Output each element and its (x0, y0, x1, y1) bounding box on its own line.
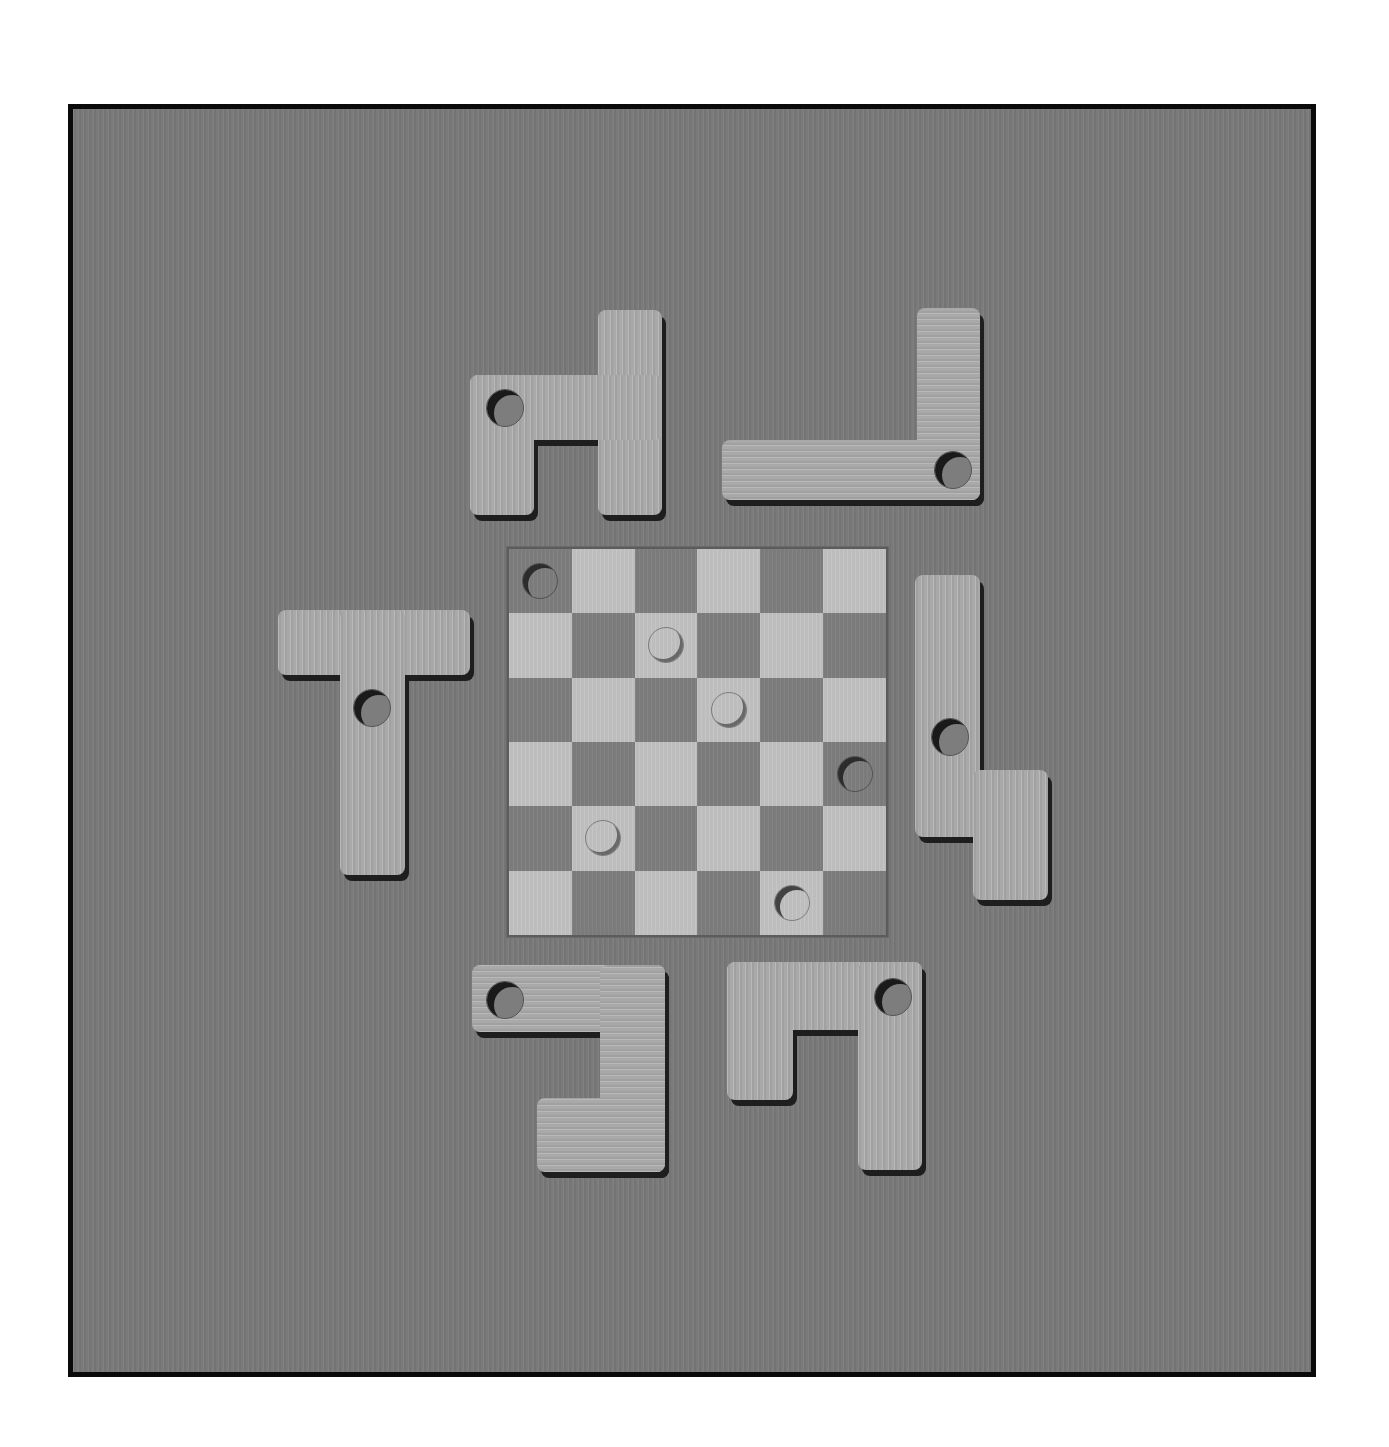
board-cell[interactable] (823, 549, 886, 613)
board-cell[interactable] (760, 806, 823, 870)
board-cell[interactable] (635, 613, 698, 677)
board-cell[interactable] (572, 678, 635, 742)
board-cell[interactable] (509, 806, 572, 870)
board-cell[interactable] (697, 742, 760, 806)
piece-segment[interactable] (727, 962, 793, 1100)
board-cell[interactable] (697, 613, 760, 677)
board-cell[interactable] (572, 613, 635, 677)
board-cell[interactable] (572, 871, 635, 935)
board-cell[interactable] (572, 549, 635, 613)
board-cell[interactable] (509, 742, 572, 806)
board-cell[interactable] (760, 742, 823, 806)
board-cell[interactable] (697, 678, 760, 742)
peg-hole-icon[interactable] (522, 563, 558, 599)
board-cell[interactable] (509, 549, 572, 613)
board-cell[interactable] (823, 742, 886, 806)
board-cell[interactable] (823, 806, 886, 870)
piece-hole-icon (874, 978, 912, 1016)
peg-hole-icon[interactable] (774, 885, 810, 921)
board-cell[interactable] (823, 678, 886, 742)
board-cell[interactable] (635, 678, 698, 742)
board-cell[interactable] (509, 871, 572, 935)
game-board[interactable] (507, 547, 888, 937)
board-cell[interactable] (635, 549, 698, 613)
board-cell[interactable] (760, 549, 823, 613)
peg-icon[interactable] (711, 692, 747, 728)
board-cell[interactable] (697, 871, 760, 935)
board-cell[interactable] (572, 742, 635, 806)
board-cell[interactable] (509, 678, 572, 742)
board-cell[interactable] (823, 871, 886, 935)
board-cell[interactable] (760, 871, 823, 935)
board-cell[interactable] (635, 806, 698, 870)
board-cell[interactable] (509, 613, 572, 677)
board-cell[interactable] (697, 806, 760, 870)
peg-icon[interactable] (585, 820, 621, 856)
board-cell[interactable] (760, 678, 823, 742)
peg-hole-icon[interactable] (837, 756, 873, 792)
board-cell[interactable] (635, 742, 698, 806)
board-cell[interactable] (823, 613, 886, 677)
board-cell[interactable] (635, 871, 698, 935)
board-cell[interactable] (760, 613, 823, 677)
peg-icon[interactable] (648, 627, 684, 663)
board-cell[interactable] (697, 549, 760, 613)
board-cell[interactable] (572, 806, 635, 870)
